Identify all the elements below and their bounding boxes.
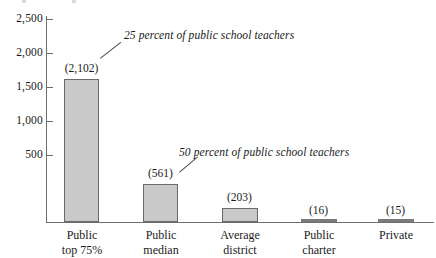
y-axis-tick xyxy=(47,87,53,88)
annotation-50-percent: 50 percent of public school teachers xyxy=(179,146,349,158)
bar-value-label: (15) xyxy=(363,204,428,216)
cat-line-2: district xyxy=(200,243,280,258)
y-axis-line xyxy=(46,16,47,223)
y-axis-tick-label: 2,000 xyxy=(16,46,43,58)
y-axis-tick xyxy=(47,155,53,156)
bar-value-label: (2,102) xyxy=(49,62,114,74)
scan-artifact xyxy=(72,0,76,3)
y-axis-tick-label: 2,500 xyxy=(16,12,43,24)
y-axis-tick xyxy=(47,19,53,20)
y-axis-tick-label: 1,000 xyxy=(16,114,43,126)
x-axis-label-private: Private xyxy=(356,228,436,243)
cat-line-1: Public xyxy=(67,228,98,242)
annotation-25-percent: 25 percent of public school teachers xyxy=(124,29,294,41)
y-axis-tick-label: 500 xyxy=(25,148,43,160)
x-axis-label-public-charter: Public charter xyxy=(279,228,359,257)
x-axis-label-public-median: Public median xyxy=(121,228,201,257)
annotation-leader-line xyxy=(100,42,121,59)
bar-public-median xyxy=(143,184,178,222)
y-axis-tick xyxy=(47,53,53,54)
cat-line-1: Public xyxy=(146,228,177,242)
cat-line-2: top 75% xyxy=(42,243,122,258)
x-axis-label-public-top-75: Public top 75% xyxy=(42,228,122,257)
y-axis-tick-label: 1,500 xyxy=(16,80,43,92)
bar-public-top-75 xyxy=(64,79,99,222)
cat-line-1: Public xyxy=(304,228,335,242)
bar-chart: 2,500 2,000 1,500 1,000 500 (2,102) (561… xyxy=(0,0,436,258)
bar-value-label: (16) xyxy=(286,204,351,216)
bar-value-label: (203) xyxy=(207,191,272,203)
y-axis-tick xyxy=(47,121,53,122)
x-axis-label-average-district: Average district xyxy=(200,228,280,257)
bar-average-district xyxy=(222,208,258,222)
cat-line-2: charter xyxy=(279,243,359,258)
cat-line-1: Private xyxy=(379,228,413,242)
scan-artifact xyxy=(22,0,26,3)
cat-line-2: median xyxy=(121,243,201,258)
x-axis-line xyxy=(46,222,434,223)
bar-private xyxy=(378,219,414,222)
cat-line-1: Average xyxy=(220,228,260,242)
bar-public-charter xyxy=(301,219,337,222)
